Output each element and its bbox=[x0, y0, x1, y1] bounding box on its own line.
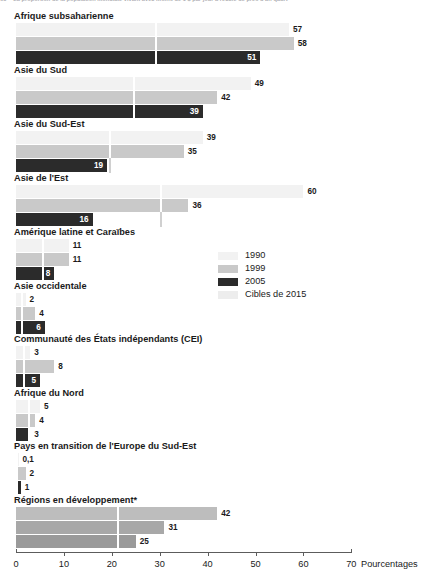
bar-value-label: 31 bbox=[168, 521, 177, 534]
bar-value-label: 39 bbox=[207, 131, 216, 144]
bar-value-label: 5 bbox=[31, 374, 36, 387]
target-2015-tick bbox=[21, 292, 23, 307]
target-2015-tick bbox=[160, 212, 162, 227]
bar-1990 bbox=[16, 23, 289, 36]
axis-tick-label: 30 bbox=[155, 559, 165, 569]
running-head-text: La proportion de la population mondiale … bbox=[13, 0, 287, 2]
bar-row: 19 bbox=[16, 159, 428, 172]
legend-swatch-icon bbox=[218, 278, 238, 286]
bar-row: 5 bbox=[16, 374, 428, 387]
target-2015-tick bbox=[21, 320, 23, 335]
bar-group-label: Communauté des États indépendants (CEI) bbox=[14, 334, 202, 345]
bar-group-label: Afrique du Nord bbox=[14, 388, 84, 399]
target-2015-tick bbox=[42, 252, 44, 267]
target-2015-tick bbox=[16, 480, 18, 495]
target-2015-tick bbox=[16, 466, 18, 481]
legend-label: Cibles de 2015 bbox=[245, 289, 306, 301]
bar-group-label: Pays en transition de l'Europe du Sud-Es… bbox=[14, 441, 196, 452]
bar-row: 11 bbox=[16, 239, 428, 252]
bar-2005 bbox=[16, 105, 203, 118]
bar-value-label: 11 bbox=[73, 239, 82, 252]
bar-1999 bbox=[16, 360, 54, 373]
bar-row: 1 bbox=[16, 481, 428, 494]
bar-value-label: 25 bbox=[140, 535, 149, 548]
bar-row: 49 bbox=[16, 77, 428, 90]
target-2015-tick bbox=[117, 534, 119, 549]
bar-value-label: 36 bbox=[192, 199, 201, 212]
bar-value-label: 51 bbox=[247, 51, 256, 64]
bar-1999 bbox=[16, 199, 188, 212]
bar-value-label: 60 bbox=[307, 185, 316, 198]
bar-value-label: 5 bbox=[44, 400, 49, 413]
chart-root: 68La proportion de la population mondial… bbox=[0, 0, 428, 578]
bar-value-label: 2 bbox=[30, 293, 35, 306]
target-2015-tick bbox=[160, 198, 162, 213]
bar-group-label: Asie du Sud bbox=[14, 65, 67, 76]
bar-value-label: 19 bbox=[94, 159, 103, 172]
axis-tick bbox=[256, 552, 257, 556]
page-folio: 68 bbox=[0, 0, 6, 2]
axis-end-cap bbox=[351, 549, 352, 553]
axis-tick-label: 60 bbox=[298, 559, 308, 569]
axis-line bbox=[16, 552, 351, 553]
target-2015-tick bbox=[133, 90, 135, 105]
axis-tick-label: 70 bbox=[346, 559, 356, 569]
target-2015-tick bbox=[28, 427, 30, 442]
bar-row: 39 bbox=[16, 105, 428, 118]
bar-value-label: 57 bbox=[293, 23, 302, 36]
bar-value-label: 16 bbox=[80, 213, 89, 226]
axis-tick bbox=[64, 552, 65, 556]
target-2015-tick bbox=[117, 506, 119, 521]
legend-swatch-icon bbox=[218, 265, 238, 273]
bar-row: 42 bbox=[16, 91, 428, 104]
bar-row: 39 bbox=[16, 131, 428, 144]
axis-unit-label: Pourcentages bbox=[361, 559, 418, 569]
bar-1999 bbox=[16, 145, 184, 158]
bar-group-label: Régions en développement* bbox=[14, 495, 137, 506]
bar-group-label: Asie de l'Est bbox=[14, 173, 68, 184]
target-2015-tick bbox=[42, 266, 44, 281]
bar-value-label: 6 bbox=[36, 321, 41, 334]
axis-tick-label: 10 bbox=[59, 559, 69, 569]
bar-value-label: 39 bbox=[190, 105, 199, 118]
legend-label: 1999 bbox=[245, 263, 265, 275]
target-2015-tick bbox=[42, 238, 44, 253]
target-2015-tick bbox=[155, 22, 157, 37]
bar-row: 0,1 bbox=[16, 453, 428, 466]
target-2015-tick bbox=[28, 413, 30, 428]
bar-value-label: 4 bbox=[39, 414, 44, 427]
plot-area: Afrique subsaharienne575851Asie du Sud49… bbox=[0, 11, 428, 545]
bar-row: 4 bbox=[16, 414, 428, 427]
bar-row: 8 bbox=[16, 360, 428, 373]
legend-label: 2005 bbox=[245, 276, 265, 288]
running-head: 68La proportion de la population mondial… bbox=[0, 0, 428, 7]
bar-value-label: 8 bbox=[58, 360, 63, 373]
bar-2005 bbox=[16, 51, 260, 64]
bar-value-label: 8 bbox=[46, 267, 51, 280]
bar-row: 25 bbox=[16, 535, 428, 548]
bar-value-label: 49 bbox=[255, 77, 264, 90]
bar-row: 42 bbox=[16, 507, 428, 520]
bar-1999 bbox=[16, 91, 217, 104]
target-2015-tick bbox=[23, 373, 25, 388]
bar-row: 16 bbox=[16, 213, 428, 226]
legend-swatch-icon bbox=[218, 291, 238, 299]
bar-row: 3 bbox=[16, 346, 428, 359]
bar-value-label: 1 bbox=[25, 481, 30, 494]
bar-group-label: Amérique latine et Caraïbes bbox=[14, 227, 135, 238]
bar-row: 3 bbox=[16, 428, 428, 441]
bar-value-label: 4 bbox=[39, 307, 44, 320]
target-2015-tick bbox=[117, 520, 119, 535]
bar-row: 36 bbox=[16, 199, 428, 212]
bar-row: 31 bbox=[16, 521, 428, 534]
bar-row: 57 bbox=[16, 23, 428, 36]
bar-group-label: Asie occidentale bbox=[14, 281, 87, 292]
axis-tick-label: 40 bbox=[202, 559, 212, 569]
target-2015-tick bbox=[23, 345, 25, 360]
bar-value-label: 42 bbox=[221, 91, 230, 104]
axis-tick bbox=[112, 552, 113, 556]
target-2015-tick bbox=[23, 359, 25, 374]
bar-row: 4 bbox=[16, 307, 428, 320]
axis-tick-label: 50 bbox=[250, 559, 260, 569]
target-2015-tick bbox=[109, 158, 111, 173]
